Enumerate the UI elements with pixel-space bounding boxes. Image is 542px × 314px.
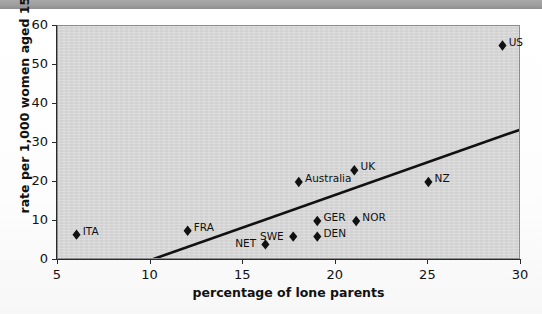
x-tick-label: 15 xyxy=(222,267,262,282)
trend-line xyxy=(151,129,520,259)
data-point-marker xyxy=(184,226,192,236)
x-axis-label: percentage of lone parents xyxy=(57,285,520,300)
y-tick-label: 0 xyxy=(14,251,48,266)
data-point-marker xyxy=(350,165,358,175)
cropped-header-bar xyxy=(0,0,542,9)
y-tick-mark xyxy=(52,181,57,182)
x-tick-label: 10 xyxy=(130,267,170,282)
data-point-label: NOR xyxy=(362,211,385,223)
data-point-label: NZ xyxy=(435,172,450,184)
y-tick-label: 10 xyxy=(14,212,48,227)
x-tick-label: 25 xyxy=(407,267,447,282)
x-axis-line xyxy=(56,259,521,260)
data-point-label: ITA xyxy=(83,225,99,237)
data-point-label: FRA xyxy=(194,221,214,233)
x-tick-mark xyxy=(427,259,428,264)
plot-area xyxy=(57,25,520,259)
x-tick-mark xyxy=(335,259,336,264)
data-point-marker xyxy=(424,177,432,187)
data-point-label: US xyxy=(509,36,523,48)
data-point-marker xyxy=(498,40,506,50)
chart-canvas: 0102030405060 51015202530 ITAFRANETSWEAu… xyxy=(0,0,542,314)
data-point-label: GER xyxy=(323,211,345,223)
data-point-label: SWE xyxy=(260,230,284,242)
x-tick-label: 30 xyxy=(500,267,540,282)
data-layer xyxy=(58,26,520,259)
y-axis-label: rate per 1,000 women aged 15–19 xyxy=(17,0,32,214)
y-tick-mark xyxy=(52,64,57,65)
x-tick-label: 20 xyxy=(315,267,355,282)
data-point-marker xyxy=(313,231,321,241)
x-tick-label: 5 xyxy=(37,267,77,282)
data-point-marker xyxy=(313,216,321,226)
data-point-marker xyxy=(352,216,360,226)
y-tick-mark xyxy=(52,142,57,143)
data-point-marker xyxy=(289,231,297,241)
x-tick-mark xyxy=(57,259,58,264)
data-point-label: UK xyxy=(361,160,376,172)
x-tick-mark xyxy=(242,259,243,264)
data-point-label: NET xyxy=(235,237,256,249)
data-point-label: Australia xyxy=(305,172,351,184)
data-point-label: DEN xyxy=(323,227,346,239)
y-tick-mark xyxy=(52,25,57,26)
x-tick-mark xyxy=(520,259,521,264)
data-point-marker xyxy=(295,177,303,187)
y-tick-mark xyxy=(52,103,57,104)
x-tick-mark xyxy=(150,259,151,264)
y-tick-mark xyxy=(52,220,57,221)
data-point-marker xyxy=(72,229,80,239)
